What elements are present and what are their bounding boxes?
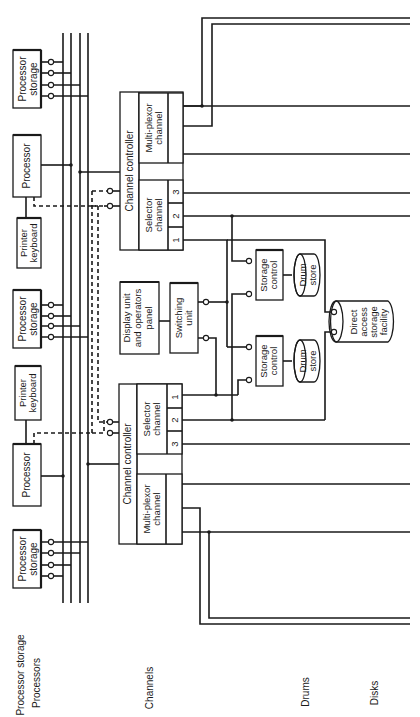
memory-bus: [63, 33, 88, 603]
cc1-port-1: 1: [170, 237, 181, 242]
channel-controller-1: Channel controller Multi-plexor channel …: [120, 92, 183, 250]
switching-unit-line2: unit: [183, 310, 194, 326]
label-disks: Disks: [369, 681, 380, 705]
drum-store-1-line2: store: [307, 264, 318, 285]
printer-keyboard-2-line2: keyboard: [27, 373, 38, 412]
display-unit: Display unit and operators panel: [120, 282, 170, 354]
cc2-selector-line2: channel: [151, 402, 162, 435]
cc1-port-3: 3: [170, 189, 181, 194]
cc2-multiplexor-links: [182, 444, 410, 624]
label-processor-storage: Processor storage: [15, 634, 26, 716]
processor-storage-3-line2: storage: [28, 542, 39, 576]
direct-access-storage-facility: Direct access storage facility: [329, 301, 393, 342]
processor-storage-2: Processor storage: [13, 290, 88, 348]
label-drums: Drums: [300, 677, 311, 706]
storage-control-2: Storage control: [246, 336, 292, 386]
cc2-multiplexor-line2: channel: [151, 492, 162, 525]
cc2-port-3: 3: [169, 441, 180, 446]
drum-store-1: Drum store: [294, 254, 320, 296]
processor-storage-3-line1: Processor: [17, 536, 28, 582]
processor-1: Processor: [13, 135, 120, 218]
processor-2: Processor: [13, 433, 119, 506]
display-unit-line2: and operators: [132, 288, 143, 347]
channel-controller-1-title: Channel controller: [124, 130, 135, 212]
channel-controller-2-title: Channel controller: [122, 423, 133, 505]
cc1-multiplexor-links: [183, 18, 410, 193]
cc1-selector-line2: channel: [153, 198, 164, 231]
processor-storage-3: Processor storage: [13, 530, 88, 588]
cc1-multiplexor-line2: channel: [153, 111, 164, 144]
printer-keyboard-1: Printer keyboard: [17, 218, 41, 268]
printer-keyboard-1-line2: keyboard: [28, 223, 39, 262]
multiprocessor-system-diagram: Processor storage Processor Printer keyb…: [0, 0, 420, 717]
row-labels: Processor storage Processors Channels Dr…: [15, 634, 380, 716]
processor-1-label: Processor: [21, 143, 32, 189]
storage-control-1: Storage control: [246, 250, 292, 300]
cc2-port-2: 2: [169, 417, 180, 422]
dasf-line4: facility: [378, 309, 389, 336]
label-channels: Channels: [144, 667, 155, 709]
switching-unit: Switching unit: [170, 283, 227, 395]
cc2-port-1: 1: [169, 394, 180, 399]
display-unit-line3: panel: [143, 306, 154, 329]
storage-control-1-line2: control: [268, 261, 279, 290]
processor-storage-2-line2: storage: [28, 302, 39, 336]
processor-storage-1-line1: Processor: [17, 56, 28, 102]
dashed-console-links: [92, 188, 120, 435]
processor-storage-1-line2: storage: [28, 62, 39, 96]
processor-storage-1: Processor storage: [13, 50, 88, 108]
display-unit-line1: Display unit: [121, 293, 132, 342]
cc1-port-2: 2: [170, 213, 181, 218]
processor-2-label: Processor: [21, 452, 32, 498]
drum-store-2-line2: store: [307, 350, 318, 371]
channel-controller-2: Channel controller Selector channel 1 2 …: [119, 384, 182, 544]
drum-store-2: Drum store: [294, 340, 320, 382]
storage-control-2-line2: control: [268, 347, 279, 376]
label-processors: Processors: [31, 658, 42, 708]
processor-storage-2-line1: Processor: [17, 296, 28, 342]
